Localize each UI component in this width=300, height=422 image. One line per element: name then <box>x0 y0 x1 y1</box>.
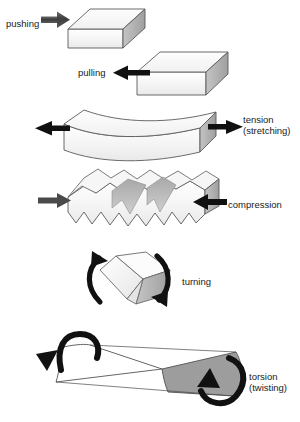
label-pushing: pushing <box>6 18 39 29</box>
label-pulling: pulling <box>78 67 105 78</box>
label-tension-line2: (stretching) <box>243 125 291 136</box>
label-compression: compression <box>228 199 282 210</box>
label-tension-line1: tension <box>243 114 274 125</box>
forces-diagram: pushing pulling tension (stretching) <box>0 0 300 422</box>
box-front-face <box>68 29 123 48</box>
forces-diagram-canvas: pushing pulling tension (stretching) <box>0 0 300 422</box>
label-torsion-line1: torsion <box>249 371 278 382</box>
label-turning: turning <box>182 276 211 287</box>
label-torsion-line2: (twisting) <box>249 382 287 393</box>
